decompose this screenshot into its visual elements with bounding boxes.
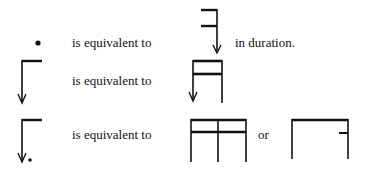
dotted-flag-stem-arrow-icon	[16, 117, 50, 167]
single-beam-tick-icon	[289, 117, 351, 162]
row3-connector: or	[258, 127, 269, 143]
double-beam-three-stems-icon	[188, 117, 250, 165]
row1-suffix: in duration.	[235, 35, 295, 51]
dot-note-icon	[34, 39, 42, 47]
double-beam-arrow-icon	[187, 58, 227, 106]
flag-stem-arrow-icon	[16, 58, 46, 106]
row1-phrase: is equivalent to	[72, 35, 151, 51]
row3-phrase: is equivalent to	[72, 127, 151, 143]
row2-phrase: is equivalent to	[72, 73, 151, 89]
hook-stem-arrow-icon	[198, 6, 224, 56]
